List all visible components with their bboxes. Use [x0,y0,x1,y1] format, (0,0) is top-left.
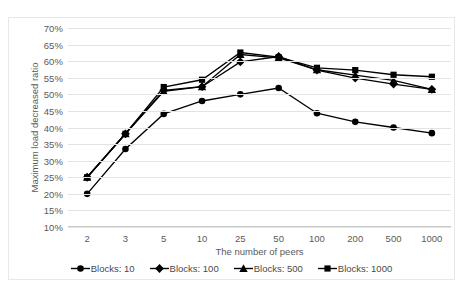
legend-marker-square-icon [318,263,337,274]
series-line [87,53,432,178]
gridline [68,128,451,129]
legend-label: Blocks: 100 [170,263,219,274]
data-point [161,84,167,90]
legend-item-1[interactable]: Blocks: 10 [71,263,135,274]
data-point [122,146,129,153]
y-axis-tick-label: 55% [44,72,63,83]
legend-item-2[interactable]: Blocks: 100 [150,263,219,274]
chart-container: Maximum load decreased ratio 10%15%20%25… [8,17,455,280]
x-axis-tick-label: 200 [347,233,363,244]
data-point [276,54,282,60]
series-2 [83,52,437,182]
gridline [68,177,451,178]
x-axis-tick-label: 50 [273,233,284,244]
gridline [68,61,451,62]
legend-label: Blocks: 10 [91,263,135,274]
data-point [314,65,320,71]
legend-label: Blocks: 500 [254,263,303,274]
x-axis-tick-label: 3 [123,233,128,244]
y-axis-tick-label: 10% [44,222,63,233]
legend-marker-triangle-icon [234,263,253,274]
y-axis-title: Maximum load decreased ratio [28,28,42,227]
gridline [68,144,451,145]
data-point [352,119,359,126]
data-point [275,85,282,92]
data-point [237,49,243,55]
y-axis-tick-label: 70% [44,23,63,34]
x-axis-tick-label: 1000 [421,233,442,244]
gridline [68,227,451,228]
y-axis-tick-label: 65% [44,39,63,50]
chart-legend: Blocks: 10Blocks: 100Blocks: 500Blocks: … [9,263,454,274]
gridline [68,78,451,79]
gridline [68,45,451,46]
y-axis-tick-label: 50% [44,89,63,100]
x-axis-title-text: The number of peers [215,246,303,257]
y-axis-tick-label: 35% [44,139,63,150]
legend-item-4[interactable]: Blocks: 1000 [318,263,392,274]
data-point [352,67,358,73]
x-axis-tick-label: 10 [197,233,208,244]
gridline [68,161,451,162]
y-axis-tick-label: 25% [44,172,63,183]
y-axis-tick-label: 30% [44,155,63,166]
legend-marker-diamond-icon [150,263,169,274]
y-axis-tick-label: 45% [44,105,63,116]
x-axis-tick-label: 25 [235,233,246,244]
x-axis-tick-label: 5 [161,233,166,244]
plot-area: 10%15%20%25%30%35%40%45%50%55%60%65%70% … [68,28,451,227]
y-axis-tick-label: 40% [44,122,63,133]
gridline [68,194,451,195]
data-point [122,131,128,137]
x-axis-tick-label: 100 [309,233,325,244]
gridline [68,111,451,112]
legend-label: Blocks: 1000 [338,263,392,274]
gridline [68,28,451,29]
y-axis-title-text: Maximum load decreased ratio [30,63,41,193]
gridline [68,94,451,95]
y-axis-tick-label: 60% [44,56,63,67]
x-axis-title: The number of peers [68,246,451,257]
legend-marker-circle-icon [71,263,90,274]
gridline [68,210,451,211]
data-point [199,98,206,105]
legend-item-3[interactable]: Blocks: 500 [234,263,303,274]
x-axis-line [68,226,451,227]
series-1 [84,85,435,197]
data-point [429,74,435,80]
y-axis-tick-label: 20% [44,188,63,199]
x-axis-tick-label: 2 [84,233,89,244]
y-axis-tick-label: 15% [44,205,63,216]
x-axis-tick-label: 500 [386,233,402,244]
data-point [429,130,436,137]
